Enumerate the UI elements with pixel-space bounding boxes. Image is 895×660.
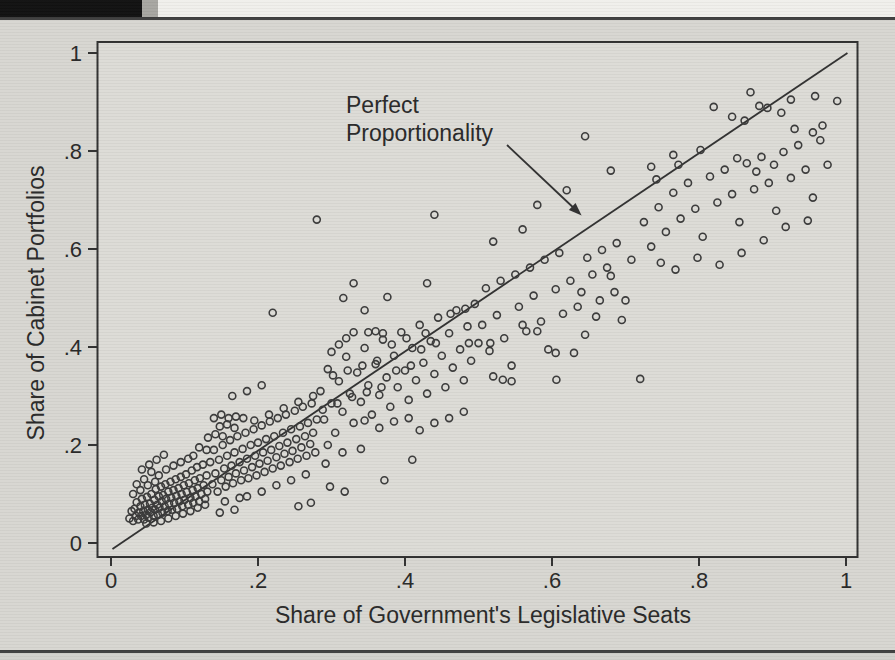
y-tick-label: .2 <box>64 433 82 458</box>
y-axis-ticks: 0.2.4.6.81 <box>64 41 97 556</box>
x-tick-label: .8 <box>690 568 708 593</box>
x-axis-ticks: 0.2.4.6.81 <box>105 557 852 593</box>
x-tick-label: 0 <box>105 568 117 593</box>
x-tick-label: .6 <box>543 568 561 593</box>
x-axis-title: Share of Government's Legislative Seats <box>275 602 691 628</box>
y-tick-label: .8 <box>64 139 82 164</box>
annotation-line2: Proportionality <box>346 120 494 146</box>
scanned-book-page: 0.2.4.6.81 0.2.4.6.81 Perfect Proportion… <box>0 0 895 660</box>
y-tick-label: 1 <box>70 41 82 66</box>
y-tick-label: .4 <box>64 335 82 360</box>
x-tick-label: 1 <box>840 568 852 593</box>
annotation-line1: Perfect <box>346 92 419 118</box>
x-tick-label: .2 <box>249 568 267 593</box>
x-tick-label: .4 <box>396 568 414 593</box>
y-axis-title: Share of Cabinet Portfolios <box>23 166 49 441</box>
scatter-plot: 0.2.4.6.81 0.2.4.6.81 Perfect Proportion… <box>0 0 895 660</box>
y-tick-label: 0 <box>70 531 82 556</box>
y-tick-label: .6 <box>64 237 82 262</box>
